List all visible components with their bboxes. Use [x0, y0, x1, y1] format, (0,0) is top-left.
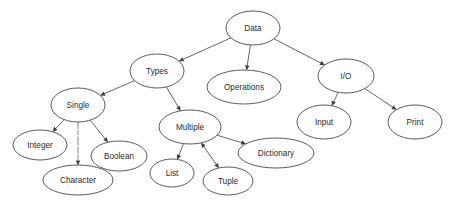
edge-data-to-types: [179, 38, 231, 62]
node-data[interactable]: Data: [226, 11, 280, 45]
node-single[interactable]: Single: [51, 88, 105, 122]
edge-data-to-operations: [245, 45, 250, 70]
node-operations[interactable]: Operations: [207, 70, 281, 104]
diagram-canvas: DataTypesOperationsI/OSingleMultipleInpu…: [0, 0, 456, 204]
node-input[interactable]: Input: [297, 105, 351, 139]
node-label-multiple: Multiple: [176, 123, 205, 132]
edge-single-to-integer: [53, 120, 65, 132]
edge-multiple-to-list: [177, 144, 184, 160]
node-label-data: Data: [244, 24, 262, 33]
node-label-input: Input: [315, 118, 334, 127]
node-io[interactable]: I/O: [318, 59, 374, 93]
edge-io-to-print: [365, 89, 397, 110]
node-tuple[interactable]: Tuple: [203, 167, 253, 195]
edge-data-to-io: [274, 39, 325, 65]
node-label-integer: Integer: [27, 141, 53, 150]
edge-multiple-to-tuple: [201, 143, 219, 168]
node-label-single: Single: [67, 101, 90, 110]
node-label-tuple: Tuple: [218, 177, 239, 186]
edge-types-to-single: [100, 81, 134, 96]
node-label-boolean: Boolean: [104, 152, 134, 161]
node-label-types: Types: [146, 67, 168, 76]
edge-types-to-multiple: [166, 87, 180, 111]
node-label-operations: Operations: [224, 83, 264, 92]
node-boolean[interactable]: Boolean: [91, 141, 147, 171]
node-multiple[interactable]: Multiple: [159, 110, 221, 144]
edge-multiple-to-dictionary: [217, 135, 246, 145]
node-layer: DataTypesOperationsI/OSingleMultipleInpu…: [13, 11, 442, 195]
node-character[interactable]: Character: [43, 165, 113, 195]
node-label-character: Character: [60, 176, 96, 185]
node-label-print: Print: [407, 118, 425, 127]
node-label-dictionary: Dictionary: [258, 149, 295, 158]
concept-map-diagram: DataTypesOperationsI/OSingleMultipleInpu…: [0, 0, 456, 204]
node-dictionary[interactable]: Dictionary: [238, 138, 314, 168]
node-integer[interactable]: Integer: [13, 130, 67, 160]
node-print[interactable]: Print: [388, 105, 442, 139]
node-list[interactable]: List: [150, 159, 194, 187]
edge-io-to-input: [332, 92, 338, 105]
edge-single-to-boolean: [90, 120, 108, 142]
node-types[interactable]: Types: [130, 54, 184, 88]
edge-single-to-character: [76, 122, 81, 165]
node-label-io: I/O: [341, 72, 352, 81]
node-label-list: List: [166, 169, 179, 178]
